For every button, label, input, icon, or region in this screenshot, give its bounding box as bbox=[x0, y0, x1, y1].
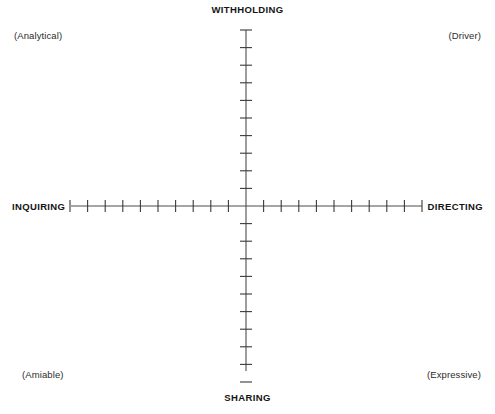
axis-label-inquiring: INQUIRING bbox=[12, 201, 65, 212]
social-styles-diagram: WITHHOLDING SHARING INQUIRING DIRECTING … bbox=[0, 0, 495, 414]
axis-label-directing: DIRECTING bbox=[428, 201, 483, 212]
quadrant-label-analytical: (Analytical) bbox=[14, 30, 62, 41]
quadrant-label-amiable: (Amiable) bbox=[22, 369, 64, 380]
axis-label-sharing: SHARING bbox=[224, 392, 270, 403]
axis-label-withholding: WITHHOLDING bbox=[212, 4, 284, 15]
quadrant-label-expressive: (Expressive) bbox=[427, 369, 481, 380]
quadrant-label-driver: (Driver) bbox=[449, 30, 481, 41]
axes-graphic bbox=[0, 0, 495, 414]
